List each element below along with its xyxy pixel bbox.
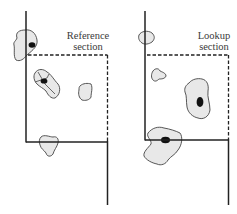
reference-core-center xyxy=(41,78,48,83)
reference-label-line1: Reference xyxy=(66,30,110,41)
reference-core-top-left xyxy=(29,42,36,48)
lookup-core-large xyxy=(197,97,204,107)
lookup-blob-bottom xyxy=(144,127,182,165)
reference-blob-bottom xyxy=(39,136,58,156)
lookup-label-line1: Lookup xyxy=(194,30,234,41)
lookup-blob-large xyxy=(185,79,210,119)
lookup-section-label: Lookup section xyxy=(194,30,234,52)
reference-section-label: Reference section xyxy=(66,30,110,52)
reference-blob-right xyxy=(79,83,92,100)
lookup-blob-top-left xyxy=(139,31,155,44)
reference-label-line2: section xyxy=(66,41,110,52)
lookup-label-line2: section xyxy=(194,41,234,52)
reference-blob-center xyxy=(34,70,60,99)
lookup-blob-small xyxy=(152,69,167,81)
